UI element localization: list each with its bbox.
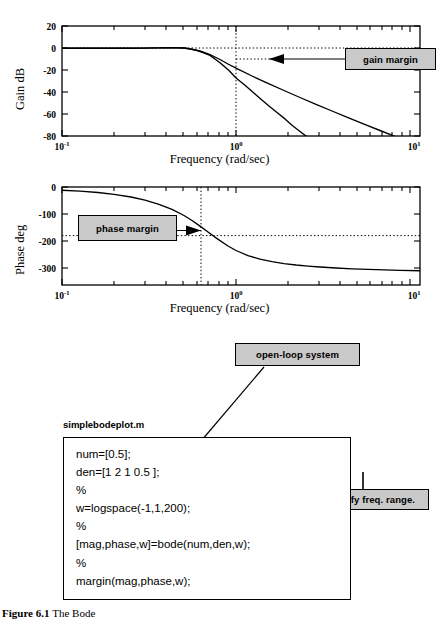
code-line: num=[0.5]; (64, 445, 350, 463)
code-line: % (64, 554, 350, 572)
gain-xtick-1e0: 100 (230, 140, 243, 152)
code-line: w=logspace(-1,1,200); (64, 499, 350, 517)
gain-plot-reference-lines (62, 26, 420, 136)
code-line: % (64, 481, 350, 499)
phase-xtick-1e0: 100 (230, 289, 243, 301)
gain-ytick-m60: -60 (43, 110, 56, 120)
gain-plot-ylabel: Gain dB (13, 68, 27, 110)
code-line: [mag,phase,w]=bode(num,den,w); (64, 535, 350, 553)
phase-xtick-1e-1: 10-1 (55, 289, 70, 301)
phase-margin-callout[interactable]: phase margin (78, 215, 177, 241)
gain-xtick-1e1: 101 (408, 140, 421, 152)
phase-plot: Phase deg 0 -100 -200 -300 10-1 100 101 (0, 175, 439, 315)
phase-ytick-m100: -100 (39, 210, 57, 220)
code-line: den=[1 2 1 0.5 ]; (64, 463, 350, 481)
gain-plot: Gain dB 20 0 -20 -40 -60 -80 10-1 100 10… (0, 0, 439, 160)
gain-ytick-m40: -40 (43, 88, 56, 98)
code-line: margin(mag,phase,w); (64, 572, 350, 590)
gain-plot-xlabel: Frequency (rad/sec) (0, 152, 439, 167)
code-block: num=[0.5]; den=[1 2 1 0.5 ]; % w=logspac… (63, 437, 351, 600)
gain-ytick-20: 20 (47, 22, 57, 32)
phase-ytick-m300: -300 (39, 264, 57, 274)
gain-plot-axes (62, 26, 420, 136)
code-line: % (64, 517, 350, 535)
phase-plot-xlabel: Frequency (rad/sec) (0, 301, 439, 316)
phase-xtick-1e1: 101 (408, 289, 421, 301)
phase-plot-ylabel: Phase deg (13, 224, 27, 275)
figure-bode-plot: Gain dB 20 0 -20 -40 -60 -80 10-1 100 10… (0, 0, 439, 624)
phase-ytick-0: 0 (51, 183, 56, 193)
gain-ytick-m80: -80 (43, 132, 56, 142)
figure-caption-text: The Bode (52, 607, 95, 619)
phase-ytick-m200: -200 (39, 237, 57, 247)
gain-ytick-0: 0 (51, 44, 56, 54)
mfile-name-label: simplebodeplot.m (63, 419, 144, 430)
gain-margin-arrow (236, 54, 345, 64)
open-loop-system-callout[interactable]: open-loop system (235, 343, 360, 366)
gain-margin-callout[interactable]: gain margin (345, 48, 436, 70)
gain-ytick-m20: -20 (43, 66, 56, 76)
figure-caption: Figure 6.1 The Bode (2, 607, 95, 619)
figure-caption-label: Figure 6.1 (2, 607, 49, 619)
gain-plot-y-ticks (62, 26, 420, 136)
gain-xtick-1e-1: 10-1 (55, 140, 70, 152)
